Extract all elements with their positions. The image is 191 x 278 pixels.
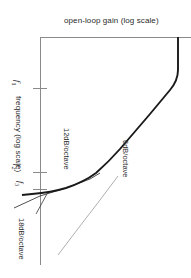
tick-label-f1: f1 bbox=[11, 80, 22, 86]
tick-label-f2-subscript: 2 bbox=[11, 167, 17, 170]
tick-label-f1-subscript: 1 bbox=[11, 83, 17, 86]
tick-label-f3-subscript: 3 bbox=[14, 183, 20, 186]
slope-annotation-18db: 18dB/octave bbox=[18, 218, 26, 260]
open-loop-gain-curve bbox=[22, 37, 178, 195]
tick-label-f3: f3 bbox=[14, 181, 24, 186]
plot-canvas bbox=[0, 0, 191, 278]
slope-annotation-6db: 6dB/octave bbox=[122, 140, 130, 178]
tick-label-f2: f2 bbox=[11, 164, 22, 170]
bode-plot-figure: open-loop gain (log scale) frequency (lo… bbox=[0, 0, 191, 278]
slope-annotation-12db: 12dB/octave bbox=[63, 128, 71, 170]
frequency-axis-label: frequency (log scale) bbox=[14, 96, 22, 172]
gain-axis-label: open-loop gain (log scale) bbox=[64, 17, 159, 25]
